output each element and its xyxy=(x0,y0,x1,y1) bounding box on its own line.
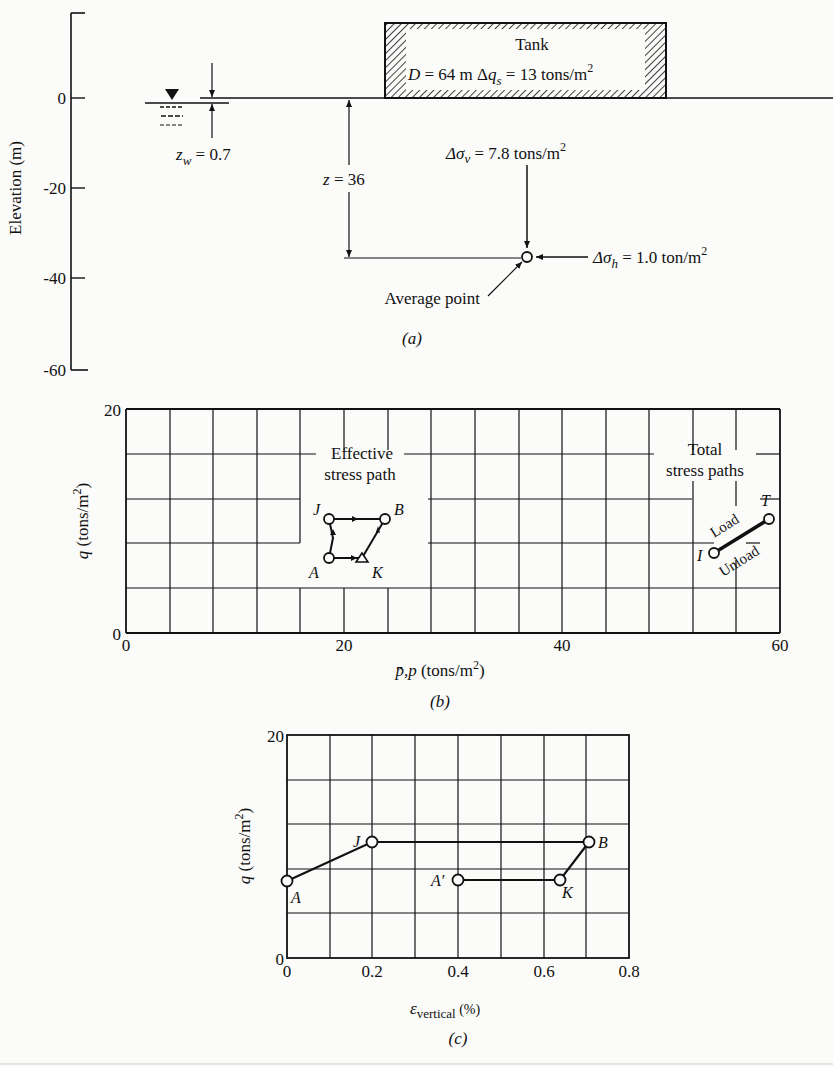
point-K-b: K xyxy=(371,564,384,581)
b-x-tick-0: 0 xyxy=(122,636,131,655)
y-tick-minus60: -60 xyxy=(43,361,66,380)
b-x-tick-40: 40 xyxy=(554,636,571,655)
elevation-axis: 0 -20 -40 -60 Elevation (m) xyxy=(6,13,88,380)
z-depth-dimension: z = 36 xyxy=(322,100,521,258)
b-y-axis-label: q (tons/m2) xyxy=(70,483,92,559)
panel-c: 20 0 0 0.2 0.4 0.6 0.8 q (tons/m2) εvert… xyxy=(232,727,640,1048)
z-depth-label: z = 36 xyxy=(322,170,365,189)
point-A-b: A xyxy=(308,564,319,581)
total-stress-path: I T Load Unload xyxy=(696,492,774,580)
b-x-tick-20: 20 xyxy=(336,636,353,655)
c-y-axis-label: q (tons/m2) xyxy=(232,808,254,884)
panel-b: 20 0 0 20 40 60 q (tons/m2) p̄,p (tons/m… xyxy=(70,401,789,711)
grid-b xyxy=(126,409,780,633)
c-y-tick-20: 20 xyxy=(267,727,284,746)
b-x-tick-60: 60 xyxy=(772,636,789,655)
point-B-c: B xyxy=(598,834,608,851)
load-label: Load xyxy=(707,510,742,540)
c-x-tick-0.2: 0.2 xyxy=(361,962,382,981)
c-x-axis-label: εvertical (%) xyxy=(410,999,481,1021)
b-y-tick-20: 20 xyxy=(104,401,121,420)
effective-label-line1: Effective xyxy=(331,444,393,463)
caption-b: (b) xyxy=(430,692,450,711)
zw-dimension: zw = 0.7 xyxy=(175,63,231,168)
point-I: I xyxy=(696,547,703,564)
c-x-tick-0.6: 0.6 xyxy=(533,962,554,981)
water-table-icon xyxy=(145,89,229,125)
point-K-c: K xyxy=(561,884,574,901)
c-x-tick-0: 0 xyxy=(283,962,292,981)
b-y-tick-0: 0 xyxy=(113,625,122,644)
average-point: Δσv = 7.8 tons/m2 Δσh = 1.0 ton/m2 Avera… xyxy=(384,140,707,308)
tank-title: Tank xyxy=(515,35,549,54)
y-tick-0: 0 xyxy=(58,89,67,108)
tank: Tank D = 64 m Δqs = 13 tons/m2 xyxy=(385,23,666,98)
effective-stress-path: J B A K xyxy=(308,501,404,581)
figure: 0 -20 -40 -60 Elevation (m) zw = 0.7 xyxy=(0,0,833,1067)
effective-label-line2: stress path xyxy=(324,465,396,484)
point-J-c: J xyxy=(353,833,361,850)
point-A-prime-c: A′ xyxy=(430,872,445,889)
point-B-b: B xyxy=(394,501,404,518)
total-label-line1: Total xyxy=(688,440,723,459)
elevation-axis-label: Elevation (m) xyxy=(6,141,25,235)
point-J-b: J xyxy=(313,501,321,518)
caption-a: (a) xyxy=(402,329,422,348)
zw-label: zw = 0.7 xyxy=(175,145,231,168)
panel-a: 0 -20 -40 -60 Elevation (m) zw = 0.7 xyxy=(6,13,833,380)
c-x-tick-0.4: 0.4 xyxy=(447,962,469,981)
total-label-line2: stress paths xyxy=(666,461,744,480)
delta-sigma-h-label: Δσh = 1.0 ton/m2 xyxy=(592,244,707,271)
caption-c: (c) xyxy=(449,1029,468,1048)
point-T: T xyxy=(761,492,771,509)
y-tick-minus20: -20 xyxy=(43,179,66,198)
grid-c xyxy=(287,735,629,958)
c-x-tick-0.8: 0.8 xyxy=(618,962,639,981)
b-x-axis-label: p̄,p (tons/m2) xyxy=(394,658,484,680)
average-point-label: Average point xyxy=(384,289,480,308)
y-tick-minus40: -40 xyxy=(43,269,66,288)
point-A-c: A xyxy=(290,889,301,906)
delta-sigma-v-label: Δσv = 7.8 tons/m2 xyxy=(445,140,566,166)
